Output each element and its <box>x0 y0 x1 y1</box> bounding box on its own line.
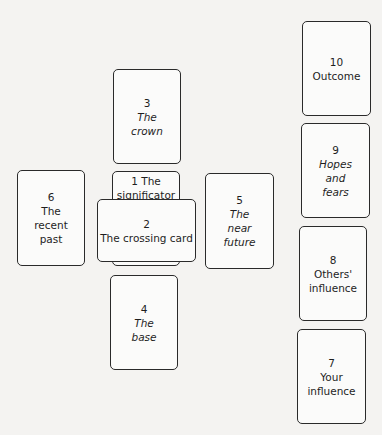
card-number: 6 <box>48 190 55 204</box>
card-label: The base <box>131 316 156 344</box>
card-number: 3 <box>144 96 151 110</box>
card-2-the-crossing-card: 2 The crossing card <box>97 199 196 262</box>
card-label: Outcome <box>313 69 361 83</box>
card-8-others-influence: 8 Others' influence <box>299 226 367 321</box>
card-label: The crossing card <box>100 231 193 245</box>
card-number: 8 <box>330 253 337 267</box>
card-label: The near future <box>224 207 256 249</box>
card-label: Your influence <box>307 370 355 398</box>
card-10-outcome: 10 Outcome <box>302 21 371 116</box>
card-number: 4 <box>141 302 148 316</box>
card-9-hopes-and-fears: 9 Hopes and fears <box>301 123 370 218</box>
card-number: 7 <box>328 356 335 370</box>
card-label: The crown <box>131 110 163 138</box>
card-label: 1 The <box>131 174 161 188</box>
card-number: 9 <box>332 143 339 157</box>
card-number: 2 <box>143 217 150 231</box>
card-label: The recent past <box>34 204 68 246</box>
card-number: 5 <box>236 193 243 207</box>
card-label: Others' influence <box>309 267 357 295</box>
card-4-the-base: 4 The base <box>110 275 178 370</box>
card-number: 10 <box>330 55 343 69</box>
card-7-your-influence: 7 Your influence <box>297 329 366 424</box>
card-3-the-crown: 3 The crown <box>113 69 181 164</box>
card-5-the-near-future: 5 The near future <box>205 173 274 269</box>
card-6-the-recent-past: 6 The recent past <box>17 170 85 266</box>
card-label: Hopes and fears <box>319 157 352 199</box>
